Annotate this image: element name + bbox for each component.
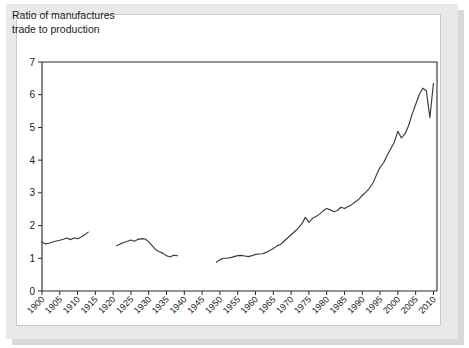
- chart-card: [16, 14, 441, 326]
- figure-root: Ratio of manufactures trade to productio…: [0, 0, 469, 348]
- mount-shadow-right: [458, 10, 464, 341]
- mount-shadow-bottom: [12, 339, 464, 345]
- chart-title: Ratio of manufactures trade to productio…: [12, 8, 272, 36]
